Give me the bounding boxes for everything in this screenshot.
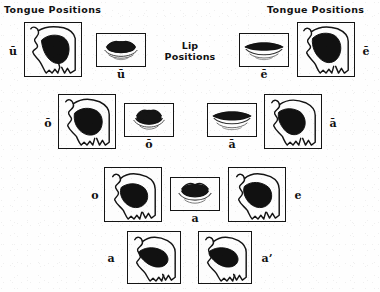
tongue-diagram-a-macron xyxy=(265,95,321,148)
label-lips-e-macron: ē xyxy=(254,69,274,80)
label-tongue-o: o xyxy=(88,190,102,201)
lip-panel-e-macron xyxy=(239,33,289,67)
label-tongue-u-macron: ū xyxy=(6,46,20,57)
tongue-diagram-u-macron xyxy=(25,23,81,76)
tongue-panel-e xyxy=(228,167,286,222)
label-tongue-e: e xyxy=(291,190,305,201)
tongue-panel-o-macron xyxy=(58,94,116,149)
lip-panel-a xyxy=(170,177,220,211)
label-tongue-o-macron: ō xyxy=(41,118,55,129)
tongue-panel-a-prime xyxy=(198,231,252,284)
label-lips-a: a xyxy=(185,213,205,224)
tongue-diagram-e xyxy=(229,168,285,221)
tongue-panel-a-macron xyxy=(264,94,322,149)
heading-lip-positions: Lip Positions xyxy=(160,41,220,62)
label-lips-a-macron: ā xyxy=(222,139,242,150)
tongue-diagram-o-macron xyxy=(59,95,115,148)
tongue-panel-e-macron xyxy=(297,22,355,77)
label-tongue-a: a xyxy=(104,253,118,264)
tongue-panel-u-macron xyxy=(24,22,82,77)
tongue-diagram-o xyxy=(105,168,161,221)
label-lips-u-macron: ū xyxy=(111,69,131,80)
heading-lip-positions-line2: Positions xyxy=(160,52,220,63)
lip-panel-a-macron xyxy=(207,103,257,137)
tongue-diagram-e-macron xyxy=(298,23,354,76)
heading-lip-positions-line1: Lip xyxy=(160,41,220,52)
lips-diagram-e-macron xyxy=(240,34,288,66)
label-tongue-e-macron: ē xyxy=(359,46,373,57)
label-tongue-a-prime: a’ xyxy=(258,253,276,264)
lips-diagram-a xyxy=(171,178,219,210)
lip-panel-u-macron xyxy=(96,33,146,67)
heading-tongue-positions-right: Tongue Positions xyxy=(267,4,364,15)
tongue-panel-o xyxy=(104,167,162,222)
lip-panel-o-macron xyxy=(124,103,174,137)
tongue-panel-a xyxy=(127,231,181,284)
tongue-diagram-a-prime xyxy=(199,232,251,283)
lips-diagram-u-macron xyxy=(97,34,145,66)
lips-diagram-a-macron xyxy=(208,104,256,136)
tongue-diagram-a xyxy=(128,232,180,283)
label-tongue-a-macron: ā xyxy=(326,118,340,129)
phonetics-vowel-chart: Tongue Positions Tongue Positions Lip Po… xyxy=(0,0,380,292)
lips-diagram-o-macron xyxy=(125,104,173,136)
label-lips-o-macron: ō xyxy=(139,139,159,150)
heading-tongue-positions-left: Tongue Positions xyxy=(4,4,101,15)
